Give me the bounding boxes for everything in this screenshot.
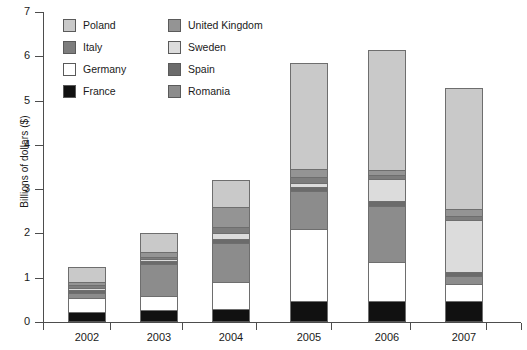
legend-swatch-icon xyxy=(63,41,76,54)
y-axis-tick-label: 4 xyxy=(0,138,30,150)
legend-swatch-icon xyxy=(168,85,181,98)
bar-segment-france xyxy=(368,301,406,322)
x-axis-tick-label: 2006 xyxy=(357,331,417,343)
bar-segment-france xyxy=(68,312,106,322)
bar-segment-france xyxy=(445,301,483,322)
y-axis-tick xyxy=(35,56,44,57)
legend-swatch-icon xyxy=(63,85,76,98)
bar-segment-germany xyxy=(290,229,328,301)
bar-segment-poland xyxy=(290,63,328,169)
legend-item-italy: Italy xyxy=(63,36,173,58)
x-axis-tick-label: 2003 xyxy=(129,331,189,343)
x-axis-line xyxy=(43,322,521,323)
y-axis-tick-label: 5 xyxy=(0,94,30,106)
x-axis-tick xyxy=(521,323,522,330)
bar-2007 xyxy=(445,88,483,322)
bar-2002 xyxy=(68,267,106,322)
y-axis-tick xyxy=(35,278,44,279)
legend-label: Germany xyxy=(83,63,126,75)
bar-segment-romania xyxy=(212,243,250,282)
y-axis-tick xyxy=(35,12,44,13)
y-axis-tick-label: 6 xyxy=(0,49,30,61)
legend-item-sweden: Sweden xyxy=(168,36,278,58)
y-axis-tick-label: 7 xyxy=(0,5,30,17)
bar-segment-united-kingdom xyxy=(290,169,328,177)
x-axis-tick-label: 2004 xyxy=(201,331,261,343)
bar-segment-united-kingdom xyxy=(445,209,483,216)
legend-label: Sweden xyxy=(188,41,226,53)
x-axis-tick xyxy=(110,323,111,330)
bar-2004 xyxy=(212,180,250,322)
legend-item-france: France xyxy=(63,80,173,102)
x-axis-tick xyxy=(43,323,44,330)
bar-segment-poland xyxy=(212,180,250,207)
x-axis-tick xyxy=(331,323,332,330)
stacked-bar-chart: Billions of dollars ($) 01234567 2002200… xyxy=(0,0,527,350)
bar-2006 xyxy=(368,50,406,322)
legend-swatch-icon xyxy=(63,19,76,32)
y-axis-tick-label: 2 xyxy=(0,226,30,238)
legend-column-left: PolandItalyGermanyFrance xyxy=(63,14,173,102)
y-axis-line xyxy=(43,12,44,323)
bar-segment-poland xyxy=(445,88,483,209)
legend-label: Romania xyxy=(188,85,230,97)
bar-segment-poland xyxy=(368,50,406,170)
legend-label: United Kingdom xyxy=(188,19,263,31)
bar-segment-romania xyxy=(140,264,178,296)
y-axis-tick xyxy=(35,101,44,102)
x-axis-tick xyxy=(486,323,487,330)
x-axis-tick xyxy=(182,323,183,330)
legend-item-romania: Romania xyxy=(168,80,278,102)
legend-item-united-kingdom: United Kingdom xyxy=(168,14,278,36)
legend-swatch-icon xyxy=(168,41,181,54)
y-axis-title: Billions of dollars ($) xyxy=(19,52,30,272)
bar-segment-italy xyxy=(212,227,250,234)
legend-column-right: United KingdomSwedenSpainRomania xyxy=(168,14,278,102)
bar-segment-germany xyxy=(68,298,106,313)
y-axis-tick xyxy=(35,233,44,234)
x-axis-tick-label: 2007 xyxy=(434,331,494,343)
legend-swatch-icon xyxy=(63,63,76,76)
y-axis-tick-label: 1 xyxy=(0,271,30,283)
legend-label: France xyxy=(83,85,116,97)
bar-segment-romania xyxy=(290,191,328,230)
bar-segment-france xyxy=(290,301,328,322)
bar-segment-germany xyxy=(445,284,483,300)
legend-label: Spain xyxy=(188,63,215,75)
bar-segment-france xyxy=(140,310,178,322)
y-axis-tick-label: 0 xyxy=(0,315,30,327)
y-axis-tick xyxy=(35,145,44,146)
x-axis-tick-label: 2005 xyxy=(279,331,339,343)
legend-label: Poland xyxy=(83,19,116,31)
bar-segment-poland xyxy=(140,233,178,252)
y-axis-tick-label: 3 xyxy=(0,182,30,194)
bar-segment-romania xyxy=(445,276,483,285)
legend-item-poland: Poland xyxy=(63,14,173,36)
bar-segment-sweden xyxy=(368,179,406,201)
bar-segment-germany xyxy=(212,282,250,309)
bar-segment-poland xyxy=(68,267,106,282)
bar-segment-france xyxy=(212,309,250,322)
legend-item-spain: Spain xyxy=(168,58,278,80)
legend-swatch-icon xyxy=(168,63,181,76)
bar-segment-germany xyxy=(140,296,178,309)
legend-label: Italy xyxy=(83,41,102,53)
bar-segment-sweden xyxy=(445,220,483,272)
bar-segment-romania xyxy=(368,206,406,263)
legend-swatch-icon xyxy=(168,19,181,32)
x-axis-tick xyxy=(256,323,257,330)
legend-item-germany: Germany xyxy=(63,58,173,80)
legend: PolandItalyGermanyFrance United KingdomS… xyxy=(63,14,278,104)
x-axis-tick xyxy=(410,323,411,330)
bar-segment-germany xyxy=(368,262,406,301)
y-axis-tick xyxy=(35,189,44,190)
bar-segment-united-kingdom xyxy=(212,207,250,227)
x-axis-tick-label: 2002 xyxy=(57,331,117,343)
bar-2003 xyxy=(140,233,178,322)
bar-2005 xyxy=(290,63,328,322)
